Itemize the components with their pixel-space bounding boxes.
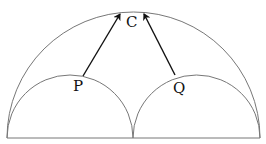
label-q: Q — [173, 79, 185, 97]
arrow-q-to-c — [144, 14, 175, 75]
right-semicircle — [133, 75, 260, 138]
label-c: C — [126, 13, 137, 31]
label-p: P — [73, 77, 83, 95]
arrow-p-to-c — [83, 14, 120, 76]
semicircle-diagram: C P Q — [0, 0, 266, 144]
left-semicircle — [7, 75, 133, 138]
